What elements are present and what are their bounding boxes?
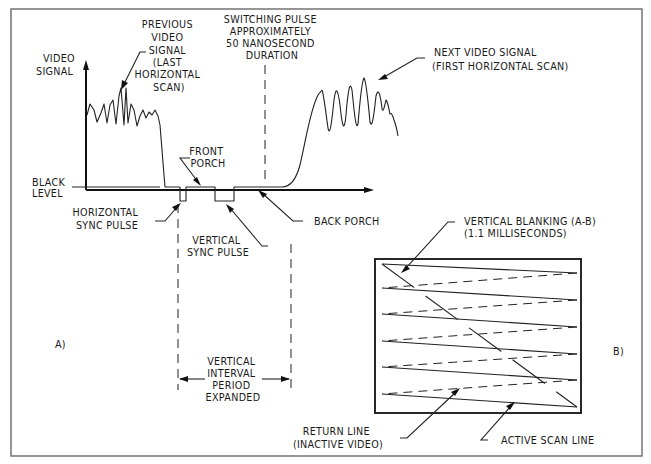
black-level-label: BLACKLEVEL	[32, 177, 65, 199]
leader-arrow-icon	[121, 80, 128, 90]
leader-arrow-icon	[193, 177, 201, 186]
vertical-sync-label: VERTICAL SYNC PULSE	[187, 235, 249, 258]
return-line-label: RETURN LINE (INACTIVE VIDEO)	[293, 426, 383, 450]
back-porch-leader	[262, 193, 303, 221]
back-porch-label: BACK PORCH	[314, 216, 379, 227]
panel-a-label: A)	[55, 339, 66, 350]
switching-pulse-label: SWITCHING PULSE APPROXIMATELY 50 NANOSEC…	[224, 14, 320, 61]
panel-b-raster-scan	[375, 222, 581, 440]
previous-video-signal-waveform	[87, 88, 180, 187]
vertical-interval-label: VERTICAL INTERVAL PERIOD EXPANDED	[206, 356, 261, 403]
vertical-blanking-label: VERTICAL BLANKING (A-B) (1.1 MILLISECOND…	[464, 216, 599, 239]
dimension-arrow-right-icon	[281, 376, 290, 382]
active-scan-line-label: ACTIVE SCAN LINE	[501, 435, 594, 446]
next-signal-leader	[384, 58, 425, 77]
dimension-arrow-left-icon	[179, 376, 188, 382]
x-axis-arrow-icon	[364, 187, 374, 193]
panel-b-label: B)	[613, 346, 624, 357]
front-porch-label: FRONT PORCH	[189, 146, 227, 169]
video-signal-diagram: VIDEOSIGNAL BLACKLEVEL PREVIOUS VIDEO SI…	[0, 0, 651, 464]
next-signal-label: NEXT VIDEO SIGNAL (FIRST HORIZONTAL SCAN…	[432, 47, 569, 72]
leader-arrow-icon	[378, 74, 388, 80]
horizontal-sync-label: HORIZONTAL SYNC PULSE	[73, 207, 142, 231]
leader-arrow-icon	[172, 203, 181, 211]
next-video-signal-waveform	[322, 78, 398, 136]
previous-signal-label: PREVIOUS VIDEO SIGNAL (LAST HORIZONTAL S…	[135, 19, 204, 93]
y-axis-arrow-icon	[83, 60, 89, 70]
y-axis-label: VIDEOSIGNAL	[36, 53, 75, 77]
